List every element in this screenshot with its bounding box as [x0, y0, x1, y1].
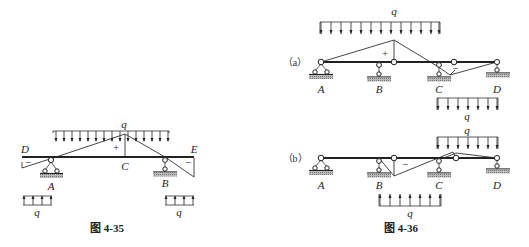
point-label-A: A	[317, 83, 325, 95]
point-label-A: A	[47, 180, 55, 192]
load-label-q: q	[176, 206, 182, 218]
sign-plus: +	[382, 47, 388, 59]
point-label-B: B	[376, 83, 383, 95]
support-B	[367, 63, 391, 82]
sign-minus-right: −	[185, 156, 191, 168]
distributed-load-bottom-a: q	[437, 98, 499, 122]
load-label-q: q	[34, 206, 40, 218]
load-label-q: q	[391, 5, 397, 17]
load-label-q: q	[464, 124, 470, 136]
point-label-B: B	[376, 179, 383, 191]
load-label-q: q	[407, 207, 413, 219]
figure-4-36a: q （a）	[283, 5, 510, 122]
point-label-C: C	[121, 160, 129, 172]
hinge-intermediate	[391, 155, 397, 161]
point-label-D: D	[20, 143, 29, 155]
distributed-load-top-b: q	[437, 124, 499, 149]
point-label-D: D	[492, 83, 501, 95]
point-label-C: C	[435, 83, 443, 95]
subfigure-tag-a: （a）	[283, 57, 307, 68]
load-label-q: q	[464, 110, 470, 122]
distributed-load-bottom-right: q	[165, 196, 195, 219]
distributed-load-top-a	[320, 22, 441, 34]
support-B	[153, 158, 177, 177]
support-C	[427, 63, 451, 82]
subfigure-tag-b: （b）	[283, 153, 308, 164]
figure-caption-4-35: 图 4-35	[90, 222, 124, 234]
sign-minus: −	[402, 158, 408, 170]
figure-caption-4-36: 图 4-36	[384, 222, 418, 234]
hinge-intermediate	[453, 155, 459, 161]
load-label-q: q	[121, 118, 127, 130]
point-label-E: E	[190, 143, 198, 155]
diagram-canvas: q	[0, 0, 529, 247]
point-label-A: A	[317, 179, 325, 191]
sign-plus: +	[113, 141, 119, 153]
sign-minus: −	[452, 62, 458, 74]
point-label-B: B	[162, 177, 169, 189]
sign-minus-left: −	[25, 156, 31, 168]
support-A	[40, 157, 63, 178]
hinge-intermediate	[391, 59, 397, 65]
point-label-D: D	[492, 179, 501, 191]
distributed-load-bottom-left: q	[23, 196, 53, 219]
figure-4-35: q	[20, 118, 198, 234]
figure-4-36b: q （b）	[283, 124, 511, 234]
point-label-C: C	[435, 179, 443, 191]
influence-line-4-36a	[321, 40, 497, 75]
distributed-load-bottom-b: q	[379, 194, 442, 219]
